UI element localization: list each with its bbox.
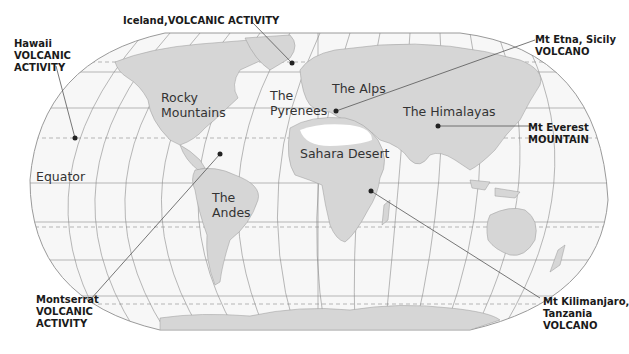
everest-type: MOUNTAIN — [528, 134, 589, 146]
callout-everest: Mt Everest MOUNTAIN — [528, 122, 589, 146]
iceland-name: Iceland, — [123, 15, 168, 26]
kilimanjaro-marker — [369, 189, 374, 194]
montserrat-type1: VOLCANIC — [36, 306, 99, 318]
montserrat-type2: ACTIVITY — [36, 318, 99, 330]
rocky-line2: Mountains — [161, 105, 226, 120]
etna-marker — [334, 109, 339, 114]
pyrenees-line1: The — [270, 88, 327, 103]
andes-line2: Andes — [212, 205, 251, 220]
iceland-type: VOLCANIC ACTIVITY — [168, 15, 280, 26]
hawaii-type2: ACTIVITY — [14, 62, 71, 74]
everest-marker — [436, 124, 441, 129]
kilimanjaro-type: VOLCANO — [543, 320, 629, 332]
callout-etna: Mt Etna, Sicily VOLCANO — [535, 34, 616, 58]
callout-kilimanjaro: Mt Kilimanjaro, Tanzania VOLCANO — [543, 296, 629, 332]
label-the-pyrenees: The Pyrenees — [270, 88, 327, 118]
everest-name: Mt Everest — [528, 122, 589, 134]
callout-hawaii: Hawaii VOLCANIC ACTIVITY — [14, 38, 71, 74]
montserrat-marker — [218, 152, 223, 157]
iceland-marker — [290, 61, 295, 66]
montserrat-name: Montserrat — [36, 294, 99, 306]
hawaii-name: Hawaii — [14, 38, 71, 50]
etna-type: VOLCANO — [535, 46, 616, 58]
callout-iceland: Iceland,VOLCANIC ACTIVITY — [123, 14, 279, 27]
andes-line1: The — [212, 190, 251, 205]
label-the-himalayas: The Himalayas — [403, 104, 496, 119]
hawaii-type1: VOLCANIC — [14, 50, 71, 62]
pyrenees-line2: Pyrenees — [270, 103, 327, 118]
label-sahara-desert: Sahara Desert — [300, 146, 390, 161]
label-the-andes: The Andes — [212, 190, 251, 220]
kilimanjaro-name2: Tanzania — [543, 308, 629, 320]
label-the-alps: The Alps — [332, 81, 386, 96]
etna-name: Mt Etna, Sicily — [535, 34, 616, 46]
kilimanjaro-name: Mt Kilimanjaro, — [543, 296, 629, 308]
hawaii-marker — [73, 136, 78, 141]
label-equator: Equator — [36, 169, 85, 184]
label-rocky-mountains: Rocky Mountains — [161, 90, 226, 120]
callout-montserrat: Montserrat VOLCANIC ACTIVITY — [36, 294, 99, 330]
rocky-line1: Rocky — [161, 90, 226, 105]
